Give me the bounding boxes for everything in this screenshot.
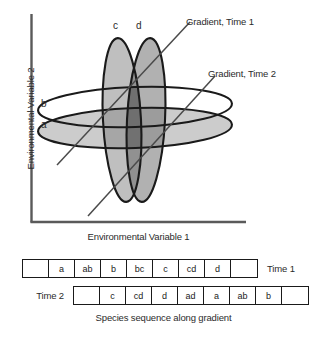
ellipse-label-c: c <box>113 20 118 31</box>
sequence-cell <box>282 287 308 304</box>
sequence-cell: c <box>153 260 179 277</box>
sequence-cell: cd <box>126 287 152 304</box>
sequence-cell <box>231 260 257 277</box>
sequence-cell <box>74 287 100 304</box>
plot-area: Environmental Variable 2 Environmental V… <box>0 0 327 252</box>
sequence-cell: d <box>152 287 178 304</box>
sequence-cell: bc <box>127 260 153 277</box>
sequence-cell: ab <box>230 287 256 304</box>
sequence-cell: a <box>49 260 75 277</box>
sequence-cell: cd <box>179 260 205 277</box>
sequence-cell: b <box>101 260 127 277</box>
ellipse-label-d: d <box>136 20 142 31</box>
figure-root: Environmental Variable 2 Environmental V… <box>0 0 327 343</box>
sequence-cell: a <box>204 287 230 304</box>
sequence-row-time-1: aabbbcccdd Time 1 <box>22 259 295 278</box>
sequence-cell: ad <box>178 287 204 304</box>
sequence-cells-time-2: ccddadaabb <box>73 286 309 305</box>
sequence-cell: c <box>100 287 126 304</box>
y-axis-title: Environmental Variable 2 <box>25 34 36 204</box>
sequence-cell <box>23 260 49 277</box>
gradient-label-time-1: Gradient, Time 1 <box>186 16 254 27</box>
sequence-row-label-time-1: Time 1 <box>267 263 295 274</box>
ellipse-label-a: a <box>41 119 47 130</box>
sequence-row-time-2: Time 2 ccddadaabb <box>22 286 309 305</box>
sequence-cell: ab <box>75 260 101 277</box>
sequence-section: aabbbcccdd Time 1 Time 2 ccddadaabb Spec… <box>0 252 327 343</box>
sequence-caption: Species sequence along gradient <box>0 312 327 323</box>
sequence-cell: d <box>205 260 231 277</box>
sequence-row-label-time-2: Time 2 <box>22 290 64 301</box>
x-axis-title: Environmental Variable 1 <box>31 231 246 242</box>
gradient-label-time-2: Gradient, Time 2 <box>208 68 276 79</box>
sequence-cell: b <box>256 287 282 304</box>
sequence-cells-time-1: aabbbcccdd <box>22 259 258 278</box>
plot-canvas <box>0 0 327 252</box>
ellipse-label-b: b <box>41 98 47 109</box>
